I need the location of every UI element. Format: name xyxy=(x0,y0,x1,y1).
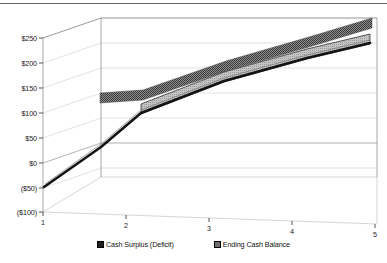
x-axis-label-1: 1 xyxy=(36,218,50,227)
y-axis-label-0: $0 xyxy=(6,159,37,168)
y-axis-label-neg50: ($50) xyxy=(4,184,37,193)
x-axis-label-2: 2 xyxy=(119,221,133,230)
y-axis-label-50: $50 xyxy=(6,134,37,143)
chart-plot-area xyxy=(0,0,387,263)
legend-swatch-ending-cash-balance xyxy=(214,241,221,248)
legend-label-ending-cash-balance: Ending Cash Balance xyxy=(223,240,290,249)
y-axis-label-200: $200 xyxy=(6,59,37,68)
y-axis-ticks xyxy=(39,38,43,212)
y-axis-label-250: $250 xyxy=(6,34,37,43)
x-axis-label-5: 5 xyxy=(368,230,382,239)
y-axis-label-150: $150 xyxy=(6,84,37,93)
legend-swatch-cash-surplus xyxy=(97,241,104,248)
plot-floor xyxy=(43,177,377,224)
legend-item-cash-surplus[interactable]: Cash Surplus (Deficit) xyxy=(97,240,174,249)
y-axis-label-100: $100 xyxy=(6,109,37,118)
legend-item-ending-cash-balance[interactable]: Ending Cash Balance xyxy=(214,240,290,249)
y-axis-label-neg100: ($100) xyxy=(2,208,37,217)
legend-label-cash-surplus: Cash Surplus (Deficit) xyxy=(106,240,174,249)
x-axis-label-4: 4 xyxy=(285,227,299,236)
chart-container: $250 $200 $150 $100 $50 $0 ($50) ($100) … xyxy=(0,0,387,263)
chart-legend: Cash Surplus (Deficit) Ending Cash Balan… xyxy=(0,240,387,249)
x-axis-label-3: 3 xyxy=(202,224,216,233)
